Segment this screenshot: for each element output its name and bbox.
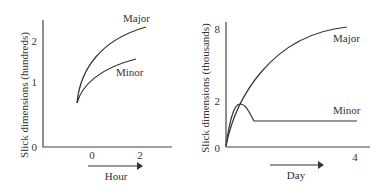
right-ytick-2: 2: [215, 95, 221, 107]
right-ytick-0: 0: [215, 142, 221, 154]
left-axes: [43, 20, 172, 147]
left-major-label: Major: [123, 12, 150, 24]
right-chart: Slick dimensions (thousands) 8 2 0 4 Maj…: [199, 22, 370, 181]
left-x-axis-label: Hour: [105, 170, 128, 182]
left-minor-label: Minor: [116, 66, 144, 78]
left-arrow-icon: [88, 162, 143, 170]
left-ytick-0: 0: [32, 141, 38, 153]
figure: Slick dimensions (hundreds) 2 1 0 0 2 Ma…: [0, 0, 380, 194]
right-ytick-8: 8: [215, 23, 221, 35]
right-arrow-icon: [270, 161, 324, 169]
right-y-axis-label: Slick dimensions (thousands): [199, 23, 212, 153]
left-major-curve: [77, 27, 146, 103]
right-x-axis-label: Day: [287, 169, 306, 181]
left-ytick-1: 1: [32, 76, 38, 88]
right-major-curve: [226, 27, 347, 146]
left-ytick-2: 2: [32, 35, 38, 47]
left-y-axis-label: Slick dimensions (hundreds): [18, 32, 31, 158]
left-xtick-0: 0: [89, 149, 95, 161]
right-major-label: Major: [333, 32, 360, 44]
right-minor-label: Minor: [333, 104, 361, 116]
right-xtick-4: 4: [352, 151, 358, 163]
left-chart: Slick dimensions (hundreds) 2 1 0 0 2 Ma…: [18, 12, 172, 182]
left-xtick-2: 2: [137, 149, 143, 161]
